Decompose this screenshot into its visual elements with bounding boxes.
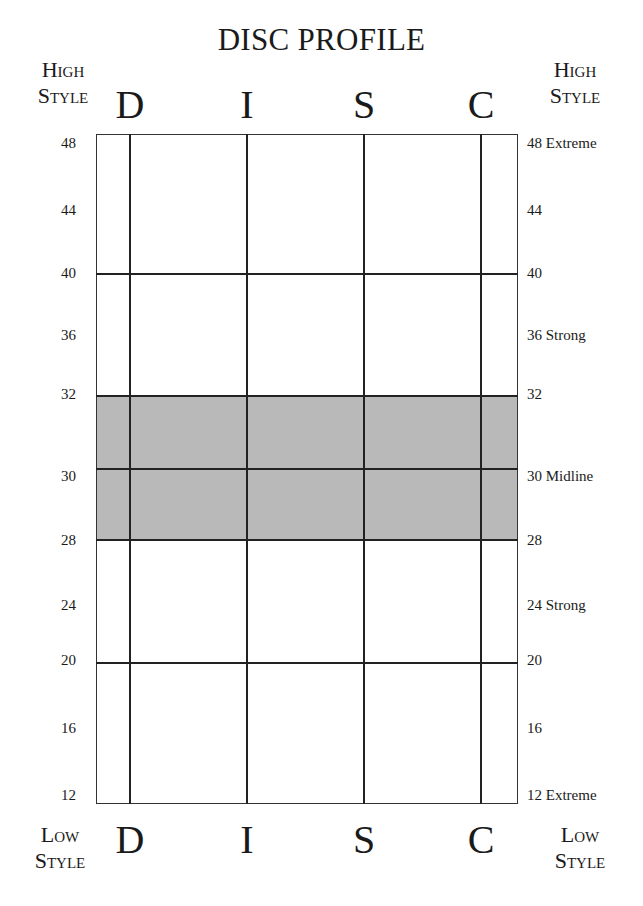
y-tick-right: 28 <box>527 532 542 548</box>
y-tick-right: 30 Midline <box>527 468 593 484</box>
column-header-d: D <box>100 85 160 125</box>
high-style-label-left: High Style <box>28 57 98 109</box>
y-tick-left: 48 <box>36 135 76 151</box>
gridline-28 <box>96 539 518 541</box>
low-style-label-left: Low Style <box>25 822 95 874</box>
y-tick-left: 32 <box>36 386 76 402</box>
y-tick-left: 28 <box>36 532 76 548</box>
y-tick-left: 24 <box>36 597 76 613</box>
column-footer-c: C <box>451 820 511 860</box>
y-tick-left: 44 <box>36 202 76 218</box>
low-word: Low <box>561 822 599 847</box>
style-word: Style <box>38 83 89 108</box>
y-tick-right: 48 Extreme <box>527 135 597 151</box>
y-tick-right: 20 <box>527 652 542 668</box>
style-word: Style <box>555 848 606 873</box>
y-tick-right: 12 Extreme <box>527 787 597 803</box>
column-footer-s: S <box>334 820 394 860</box>
high-word: High <box>554 57 597 82</box>
y-tick-left: 16 <box>36 720 76 736</box>
y-tick-right: 24 Strong <box>527 597 586 613</box>
column-footer-d: D <box>100 820 160 860</box>
y-tick-left: 20 <box>36 652 76 668</box>
gridline-30 <box>96 468 518 470</box>
low-word: Low <box>41 822 79 847</box>
y-tick-left: 40 <box>36 265 76 281</box>
column-footer-i: I <box>217 820 277 860</box>
gridline-40 <box>96 273 518 275</box>
y-tick-right: 16 <box>527 720 542 736</box>
y-tick-right: 40 <box>527 265 542 281</box>
column-header-s: S <box>334 85 394 125</box>
high-style-label-right: High Style <box>525 57 625 109</box>
y-tick-left: 36 <box>36 327 76 343</box>
y-tick-right: 36 Strong <box>527 327 586 343</box>
column-header-i: I <box>217 85 277 125</box>
style-word: Style <box>550 83 601 108</box>
gridline-20 <box>96 662 518 664</box>
y-tick-left: 30 <box>36 468 76 484</box>
y-tick-right: 44 <box>527 202 542 218</box>
y-tick-left: 12 <box>36 787 76 803</box>
low-style-label-right: Low Style <box>540 822 620 874</box>
gridline-32 <box>96 395 518 397</box>
y-tick-right: 32 <box>527 386 542 402</box>
style-word: Style <box>35 848 86 873</box>
column-header-c: C <box>451 85 511 125</box>
chart-title: DISC PROFILE <box>0 22 643 58</box>
high-word: High <box>42 57 85 82</box>
